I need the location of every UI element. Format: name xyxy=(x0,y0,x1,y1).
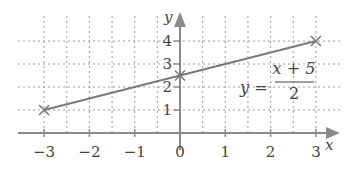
line-chart: −3−2−101231234 x y y = x + 5 2 xyxy=(0,0,351,170)
x-tick-label: −1 xyxy=(124,143,146,161)
y-tick-label: 4 xyxy=(162,32,172,50)
x-axis-label: x xyxy=(325,136,334,154)
equation-numerator: x + 5 xyxy=(273,59,316,78)
y-tick-label: 1 xyxy=(162,101,172,119)
x-tick-label: 0 xyxy=(175,143,185,161)
x-tick-label: 2 xyxy=(266,143,276,161)
x-tick-label: −2 xyxy=(78,143,100,161)
x-tick-label: −3 xyxy=(33,143,55,161)
x-tick-label: 3 xyxy=(311,143,321,161)
y-axis-arrow-icon xyxy=(174,12,186,27)
y-tick-label: 2 xyxy=(162,78,172,96)
x-tick-label: 1 xyxy=(221,143,231,161)
equation-annotation: y = x + 5 2 xyxy=(239,59,315,103)
y-axis-label: y xyxy=(163,8,173,26)
equation-denominator: 2 xyxy=(289,84,299,103)
y-tick-label: 3 xyxy=(162,55,172,73)
equation-lhs: y = xyxy=(239,78,268,97)
